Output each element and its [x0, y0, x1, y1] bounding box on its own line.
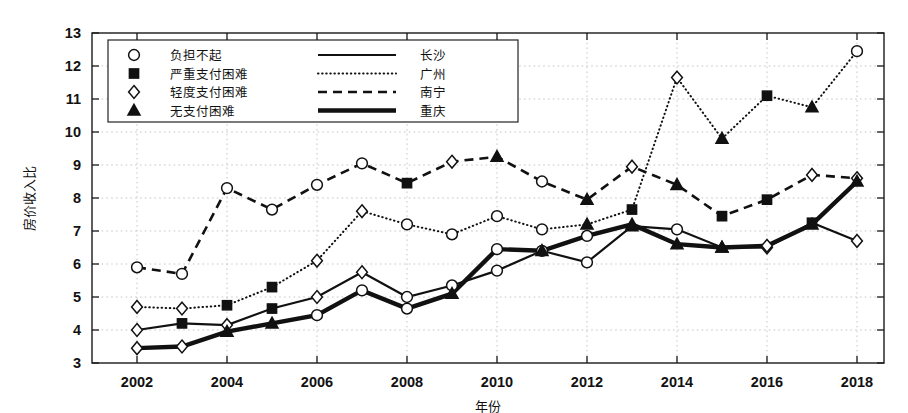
x-tick-labels: 200220042006200820102012201420162018 — [121, 374, 873, 390]
data-point-marker — [582, 257, 593, 268]
y-tick-label: 8 — [73, 190, 81, 206]
data-point-marker — [222, 301, 231, 310]
data-point-marker — [132, 262, 143, 273]
x-axis-title: 年份 — [475, 399, 501, 413]
x-tick-label: 2014 — [661, 374, 693, 390]
legend-marker-label: 无支付困难 — [170, 104, 235, 119]
data-point-marker — [357, 266, 368, 279]
y-tick-label: 13 — [65, 25, 81, 41]
x-tick-label: 2010 — [481, 374, 513, 390]
data-point-marker — [177, 319, 186, 328]
data-point-marker — [312, 310, 323, 321]
data-point-marker — [312, 291, 323, 304]
legend-marker-label: 轻度支付困难 — [170, 85, 248, 100]
data-point-marker — [132, 324, 143, 337]
data-point-marker — [762, 195, 771, 204]
data-point-marker — [357, 205, 368, 218]
data-point-marker — [537, 224, 548, 235]
x-tick-label: 2018 — [841, 374, 873, 390]
data-point-marker — [222, 183, 233, 194]
data-point-marker — [312, 179, 323, 190]
data-point-marker — [447, 155, 458, 168]
legend-marker-label: 严重支付困难 — [170, 67, 248, 82]
legend-line-label: 重庆 — [420, 104, 446, 119]
data-point-marker — [582, 231, 593, 242]
data-point-marker — [129, 69, 138, 78]
data-point-marker — [402, 179, 411, 188]
line-chart: 345678910111213 200220042006200820102012… — [0, 0, 908, 413]
x-tick-label: 2006 — [301, 374, 333, 390]
y-tick-label: 7 — [73, 223, 81, 239]
x-tick-label: 2012 — [571, 374, 603, 390]
data-point-marker — [807, 169, 818, 182]
data-point-marker — [267, 204, 278, 215]
y-tick-label: 11 — [66, 91, 81, 107]
data-point-marker — [716, 132, 728, 143]
data-point-marker — [491, 151, 503, 162]
data-point-marker — [762, 91, 771, 100]
y-tick-label: 3 — [73, 355, 81, 371]
legend-line-label: 广州 — [420, 67, 446, 82]
chart-container: 345678910111213 200220042006200820102012… — [0, 0, 908, 413]
data-point-marker — [852, 46, 863, 57]
data-point-marker — [492, 211, 503, 222]
data-point-marker — [852, 235, 863, 248]
data-point-marker — [447, 229, 458, 240]
data-point-marker — [672, 224, 683, 235]
data-point-marker — [177, 340, 188, 353]
data-point-marker — [267, 283, 276, 292]
x-tick-label: 2008 — [391, 374, 423, 390]
data-point-marker — [357, 285, 368, 296]
data-point-marker — [402, 303, 413, 314]
data-point-marker — [132, 301, 143, 314]
y-tick-label: 4 — [73, 322, 81, 338]
data-point-marker — [402, 219, 413, 230]
legend-line-label: 长沙 — [420, 48, 446, 63]
data-point-marker — [492, 244, 503, 255]
legend-marker-label: 负担不起 — [170, 48, 222, 63]
legend-line-label: 南宁 — [420, 85, 446, 100]
legend: 负担不起严重支付困难轻度支付困难无支付困难长沙广州南宁重庆 — [108, 40, 518, 122]
x-tick-label: 2002 — [121, 374, 153, 390]
data-point-marker — [177, 302, 188, 315]
data-point-marker — [537, 176, 548, 187]
data-point-marker — [267, 304, 276, 313]
y-tick-labels: 345678910111213 — [65, 25, 81, 371]
y-tick-label: 5 — [73, 289, 81, 305]
data-point-marker — [132, 342, 143, 355]
data-point-marker — [627, 160, 638, 173]
y-tick-label: 6 — [73, 256, 81, 272]
data-point-marker — [402, 292, 413, 303]
x-tick-label: 2016 — [751, 374, 783, 390]
data-point-marker — [129, 50, 140, 61]
data-point-marker — [717, 212, 726, 221]
data-point-marker — [492, 265, 503, 276]
y-tick-label: 9 — [73, 157, 81, 173]
data-point-marker — [627, 205, 636, 214]
data-point-marker — [357, 158, 368, 169]
y-tick-label: 10 — [65, 124, 81, 140]
data-point-marker — [177, 269, 188, 280]
y-axis-title: 房价收入比 — [22, 166, 37, 231]
x-tick-label: 2004 — [211, 374, 243, 390]
y-tick-label: 12 — [65, 58, 81, 74]
